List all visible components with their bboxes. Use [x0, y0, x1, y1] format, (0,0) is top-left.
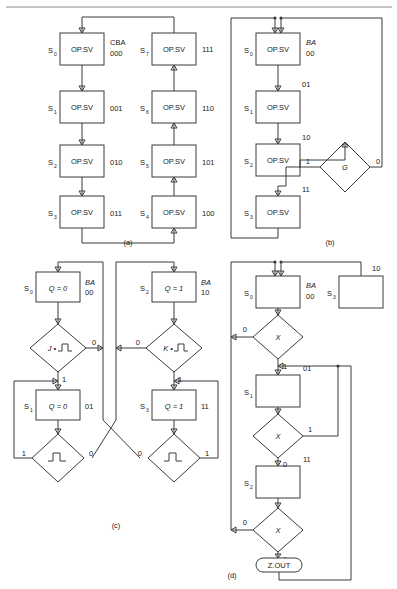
- panel-a-right-state-6: S 6 OP.SV 110: [140, 91, 214, 123]
- state-subscript: 5: [146, 163, 149, 169]
- state-label: S: [244, 388, 249, 397]
- state-subscript: 0: [54, 51, 57, 57]
- state-code: 101: [202, 158, 215, 167]
- panel-a-left-state-2: S 2 OP.SV 010: [48, 145, 123, 177]
- panel-d-caption: (d): [227, 571, 237, 580]
- state-op: Q = 1: [165, 402, 184, 411]
- state-code: 00: [85, 288, 93, 297]
- branch-true-label: 1: [306, 157, 310, 166]
- panel-a-right-state-7: S 7 OP.SV 111: [140, 33, 213, 65]
- panel-c-header-label-right: BA: [201, 278, 211, 287]
- decision-label: J •: [47, 344, 57, 353]
- state-code: 01: [85, 402, 93, 411]
- panel-c-state-0: S 0 Q = 0 BA 00: [24, 272, 95, 302]
- panel-c-state-1: S 1 Q = 0 01: [24, 390, 93, 420]
- state-subscript: 3: [146, 407, 149, 413]
- panel-c: S 0 Q = 0 BA 00 J • 0 1 S 1 Q = 0 01: [14, 262, 218, 530]
- state-subscript: 2: [54, 163, 57, 169]
- state-subscript: 1: [54, 109, 57, 115]
- panel-b-header-label: BA: [306, 38, 316, 47]
- panel-a-right-state-4: S 4 OP.SV 100: [140, 196, 215, 228]
- state-op: OP.SV: [267, 208, 289, 217]
- state-label: S: [244, 46, 249, 55]
- state-label: S: [48, 209, 53, 218]
- branch-left-label: 1: [22, 449, 26, 458]
- state-subscript: 4: [146, 214, 149, 220]
- state-subscript: 0: [30, 289, 33, 295]
- state-label: S: [244, 104, 249, 113]
- panel-c-header-label-left: BA: [85, 278, 95, 287]
- state-op: Q = 0: [49, 402, 68, 411]
- figure-asm-charts: S 0 OP.SV CBA 000 S 1 OP.SV 001 S 2 OP.S…: [0, 0, 397, 589]
- state-label: S: [24, 402, 29, 411]
- branch-false-label: 0: [92, 338, 96, 347]
- state-op: Q = 1: [165, 284, 184, 293]
- state-op: OP.SV: [163, 157, 185, 166]
- state-subscript: 3: [54, 214, 57, 220]
- state-label: S: [244, 157, 249, 166]
- panel-b: S 0 OP.SV BA 00 S 1 OP.SV 01 S 2 OP.SV 1…: [231, 16, 382, 247]
- state-subscript: 0: [250, 294, 253, 300]
- panel-c-state-3: S 3 Q = 1 11: [140, 390, 209, 420]
- asm-diagram-canvas: S 0 OP.SV CBA 000 S 1 OP.SV 001 S 2 OP.S…: [0, 0, 397, 589]
- decision-label: K •: [163, 344, 173, 353]
- branch-right-label: 1: [205, 449, 209, 458]
- state-label: S: [140, 209, 145, 218]
- panel-a-right-state-5: S 5 OP.SV 101: [140, 145, 215, 177]
- state-code: 100: [202, 209, 215, 218]
- state-op: OP.SV: [163, 103, 185, 112]
- panel-d-state-3: S 3 10: [327, 264, 383, 308]
- state-code: 110: [202, 104, 214, 113]
- panel-d-output-zout: Z.OUT: [256, 558, 302, 572]
- state-code: 111: [202, 45, 213, 54]
- state-op: OP.SV: [163, 45, 185, 54]
- state-op: Q = 0: [49, 284, 68, 293]
- state-code: 11: [201, 402, 209, 411]
- panel-d-header-label: BA: [306, 281, 316, 290]
- state-label: S: [244, 209, 249, 218]
- panel-d: S 0 BA 00 S 3 10 S 1 01 S 2 11 X 0 1: [227, 260, 383, 580]
- branch-false-label: 0: [243, 518, 247, 527]
- state-subscript: 3: [250, 214, 253, 220]
- panel-a: S 0 OP.SV CBA 000 S 1 OP.SV 001 S 2 OP.S…: [48, 17, 215, 247]
- panel-c-decision-k: K • 0 1: [136, 324, 202, 384]
- state-op: OP.SV: [163, 208, 185, 217]
- panel-a-left-state-3: S 3 OP.SV 011: [48, 196, 122, 228]
- branch-false-label: 0: [376, 157, 380, 166]
- state-label: S: [327, 289, 332, 298]
- branch-true-label: 1: [308, 425, 312, 434]
- state-label: S: [140, 46, 145, 55]
- state-code: 010: [110, 158, 123, 167]
- panel-c-state-2: S 2 Q = 1 BA 10: [140, 272, 211, 302]
- state-label: S: [244, 479, 249, 488]
- state-label: S: [140, 158, 145, 167]
- state-subscript: 1: [250, 109, 253, 115]
- state-subscript: 2: [146, 289, 149, 295]
- state-subscript: 6: [146, 109, 149, 115]
- state-op: OP.SV: [71, 45, 93, 54]
- panel-c-decision-j: J • 0 1: [30, 324, 96, 384]
- state-op: OP.SV: [267, 45, 289, 54]
- decision-label: G: [342, 163, 348, 172]
- branch-true-label: 1: [62, 375, 66, 384]
- state-label: S: [140, 104, 145, 113]
- panel-b-state-0: S 0 OP.SV BA 00: [244, 33, 316, 65]
- panel-c-decision-pulse-right: 0 1: [138, 434, 209, 482]
- branch-false-label: 0: [136, 338, 140, 347]
- decision-label: X: [274, 333, 281, 342]
- panel-d-state-0: S 0 BA 00: [244, 276, 316, 308]
- panel-a-left-state-0: S 0 OP.SV CBA 000: [48, 33, 125, 65]
- state-op: OP.SV: [71, 157, 93, 166]
- state-label: S: [48, 46, 53, 55]
- panel-d-decision-x-1: X 0 1: [243, 315, 303, 371]
- state-subscript: 7: [146, 51, 149, 57]
- state-code: 11: [303, 455, 311, 464]
- state-code: 10: [372, 264, 380, 273]
- panel-c-caption: (c): [112, 521, 121, 530]
- state-code: 01: [302, 80, 310, 89]
- panel-a-left-state-1: S 1 OP.SV 001: [48, 91, 123, 123]
- state-code: 10: [201, 288, 209, 297]
- state-code: 011: [110, 209, 122, 218]
- state-code: 001: [110, 104, 123, 113]
- state-code: 01: [303, 364, 311, 373]
